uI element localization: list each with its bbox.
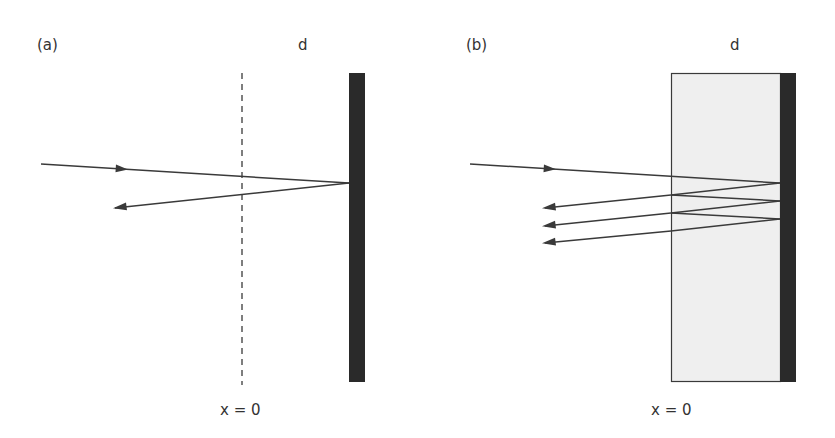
- outgoing-arrowhead-3: [542, 238, 556, 246]
- panel-a: [41, 73, 365, 385]
- outgoing-ray-3: [545, 231, 671, 243]
- incident-ray: [41, 164, 349, 183]
- incident-arrowhead: [544, 165, 557, 173]
- optics-diagram: [0, 0, 835, 438]
- reflected-arrowhead: [113, 203, 127, 211]
- mirror: [349, 73, 365, 382]
- incident-arrowhead: [116, 165, 129, 173]
- outgoing-arrowhead-2: [542, 221, 556, 229]
- dielectric-slab: [672, 74, 781, 382]
- reflected-ray: [115, 183, 349, 208]
- outgoing-ray-2: [545, 213, 671, 226]
- outgoing-arrowhead-1: [542, 203, 556, 211]
- panel-b: [470, 73, 796, 382]
- mirror: [780, 73, 796, 382]
- outgoing-ray-1: [545, 195, 671, 208]
